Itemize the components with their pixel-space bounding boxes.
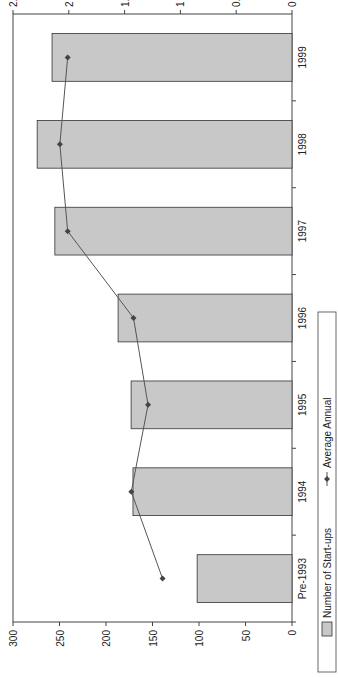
bar [37, 120, 292, 168]
secondary-axis-tick-label: 1.5 [120, 0, 131, 7]
bar [118, 294, 292, 342]
legend-swatch-bars [322, 622, 332, 636]
combo-chart: 05010015020025030000.511.522.5Pre-199319… [0, 0, 338, 678]
category-label: 1995 [297, 393, 308, 416]
primary-axis-tick-label: 200 [101, 630, 112, 647]
primary-axis-tick-label: 250 [55, 630, 66, 647]
category-label: 1998 [297, 133, 308, 156]
secondary-axis-tick-label: 2.5 [8, 0, 19, 7]
primary-axis-tick-label: 50 [241, 630, 252, 642]
primary-axis-tick-label: 100 [194, 630, 205, 647]
bar [52, 34, 292, 82]
secondary-axis-tick-label: 0 [287, 1, 298, 7]
category-label: 1997 [297, 220, 308, 243]
secondary-axis-tick-label: 1 [175, 1, 186, 7]
bar [55, 207, 292, 255]
secondary-axis-tick-label: 2 [64, 1, 75, 7]
bar [197, 555, 292, 603]
category-label: 1999 [297, 46, 308, 69]
category-label: Pre-1993 [297, 558, 308, 600]
legend-label-bars: Number of Start-ups [322, 528, 333, 618]
primary-axis-tick-label: 0 [287, 630, 298, 636]
chart-canvas: 05010015020025030000.511.522.5Pre-199319… [0, 0, 338, 678]
bar [131, 381, 292, 429]
bar [133, 468, 292, 516]
category-label: 1996 [297, 306, 308, 329]
primary-axis-tick-label: 150 [148, 630, 159, 647]
category-label: 1994 [297, 480, 308, 503]
legend-label-line: Average Annual [322, 398, 333, 468]
primary-axis-tick-label: 300 [8, 630, 19, 647]
secondary-axis-tick-label: 0.5 [231, 0, 242, 7]
